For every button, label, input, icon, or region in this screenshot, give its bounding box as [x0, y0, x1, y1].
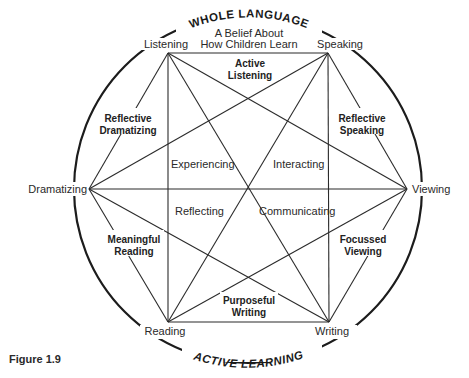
vertex-reading: Reading	[145, 325, 186, 337]
edge-purposeful-writing-1: Purposeful	[223, 295, 275, 306]
inner-communicating: Communicating	[259, 205, 335, 217]
vertex-speaking: Speaking	[317, 38, 363, 50]
inner-reflecting: Reflecting	[175, 205, 224, 217]
edge-reflective-dramatizing-2: Dramatizing	[99, 125, 156, 136]
edge-focussed-viewing-1: Focussed	[340, 234, 387, 245]
figure-caption: Figure 1.9	[9, 353, 61, 365]
edge-focussed-viewing-2: Viewing	[344, 246, 382, 257]
inner-experiencing: Experiencing	[171, 158, 235, 170]
edge-active-listening-1: Active	[235, 58, 265, 69]
vertex-viewing: Viewing	[412, 183, 450, 195]
edge-active-listening-2: Listening	[228, 70, 272, 81]
vertex-dramatizing: Dramatizing	[28, 183, 87, 195]
connecting-lines	[89, 53, 407, 322]
edge-reflective-speaking-1: Reflective	[338, 113, 386, 124]
vertex-listening: Listening	[144, 38, 188, 50]
inner-interacting: Interacting	[273, 158, 324, 170]
subtitle-line2: How Children Learn	[200, 38, 297, 50]
edge-purposeful-writing-2: Writing	[232, 307, 266, 318]
vertex-writing: Writing	[315, 325, 349, 337]
edge-meaningful-reading-1: Meaningful	[108, 234, 161, 245]
line-speaking-writing	[328, 53, 329, 322]
whole-language-diagram: WHOLE LANGUAGE ACTIVE LEARNING A Belief …	[0, 0, 469, 378]
edge-reflective-dramatizing-1: Reflective	[104, 113, 152, 124]
edge-meaningful-reading-2: Reading	[114, 246, 153, 257]
edge-reflective-speaking-2: Speaking	[340, 125, 384, 136]
